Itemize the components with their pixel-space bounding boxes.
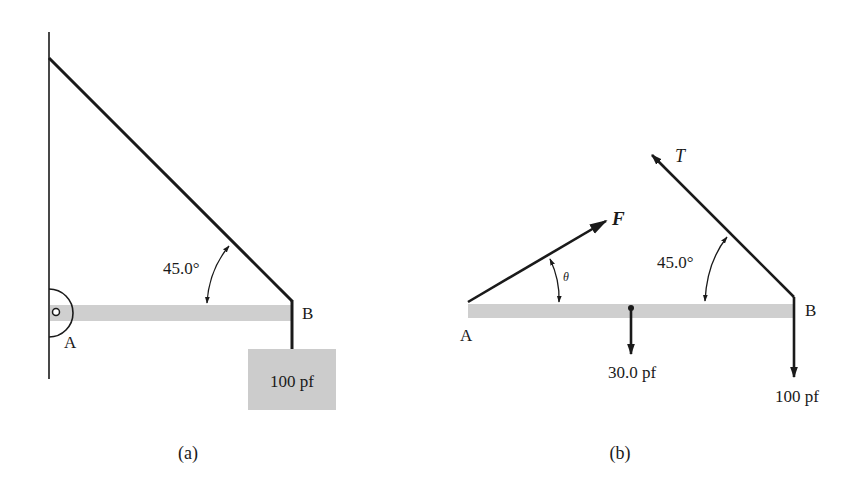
angle-arc-a: [207, 246, 229, 303]
caption-b: (b): [610, 443, 631, 464]
angle-label-b: 45.0°: [657, 253, 694, 272]
force-f-label: F: [611, 208, 625, 229]
statics-diagram: 100 pf 45.0° A B (a) F θ T 45.0° 30.0 pf…: [0, 0, 865, 488]
theta-arc: [550, 259, 559, 302]
tension-t-label: T: [675, 146, 687, 166]
figure-a: 100 pf 45.0° A B (a): [49, 32, 336, 464]
point-a-label-a: A: [64, 333, 77, 352]
point-b-label-a: B: [302, 304, 313, 323]
beam-a: [50, 305, 292, 321]
weight-box-label: 100 pf: [270, 372, 314, 391]
caption-a: (a): [178, 443, 198, 464]
angle-label-a: 45.0°: [163, 259, 200, 278]
beam-weight-label: 30.0 pf: [608, 363, 657, 382]
point-a-label-b: A: [460, 326, 473, 345]
point-b-label-b: B: [805, 301, 816, 320]
angle-arc-b: [705, 237, 727, 301]
figure-b: F θ T 45.0° 30.0 pf 100 pf A B (b): [460, 146, 819, 464]
force-f-vector: [468, 221, 606, 302]
pin-icon: [53, 309, 60, 316]
tension-t-vector: [652, 155, 794, 297]
theta-label: θ: [563, 270, 569, 284]
load-label: 100 pf: [775, 387, 819, 406]
